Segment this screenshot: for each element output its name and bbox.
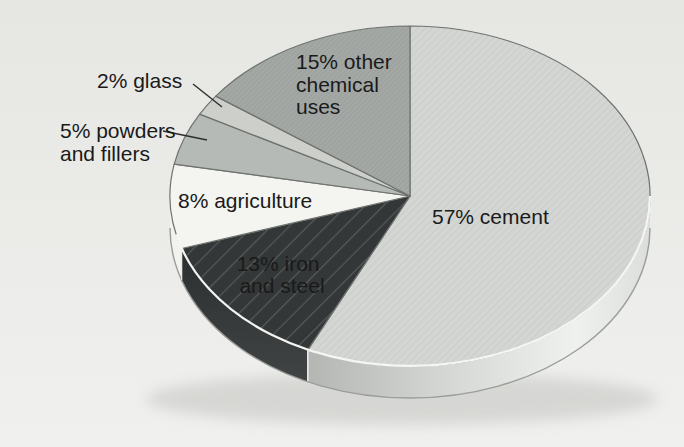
label-line: 5% powders: [60, 119, 176, 142]
label-line: and fillers: [60, 142, 150, 165]
label-line: 13% iron: [237, 252, 320, 275]
label-line: 15% other: [296, 50, 392, 73]
label-cement: 57% cement: [432, 205, 549, 228]
label-glass: 2% glass: [97, 69, 182, 92]
pie-chart-svg: 15% other chemical uses 2% glass 5% powd…: [0, 0, 684, 447]
label-agriculture: 8% agriculture: [178, 189, 312, 212]
pie-chart-figure: 15% other chemical uses 2% glass 5% powd…: [0, 0, 684, 447]
label-line: chemical: [296, 73, 379, 96]
label-iron-steel: 13% iron and steel: [237, 252, 326, 297]
label-line: uses: [296, 95, 340, 118]
label-line: and steel: [239, 274, 324, 297]
